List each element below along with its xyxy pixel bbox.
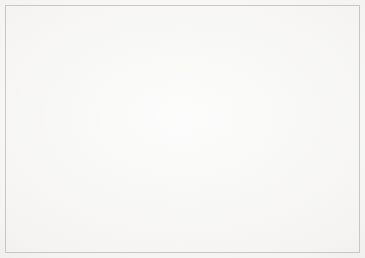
pie-chart-figure: Composition of total income xyxy=(0,0,365,258)
pie-plot-area xyxy=(42,40,232,230)
legend-item-interest-income[interactable] xyxy=(262,122,269,126)
slice-value-label-interest-income xyxy=(169,148,177,155)
pie-graphic xyxy=(42,40,232,230)
slice-value-label-commission-income xyxy=(79,145,87,152)
legend-swatch-icon-commission-income xyxy=(262,129,266,133)
slice-value-label-other-income xyxy=(102,93,110,100)
chart-title: Composition of total income xyxy=(0,13,365,28)
legend-swatch-icon-other-income xyxy=(262,136,266,140)
legend-swatch-icon-interest-income xyxy=(262,122,266,126)
legend-item-other-income[interactable] xyxy=(262,136,269,140)
legend-item-commission-income[interactable] xyxy=(262,129,269,133)
chart-legend xyxy=(262,122,269,143)
